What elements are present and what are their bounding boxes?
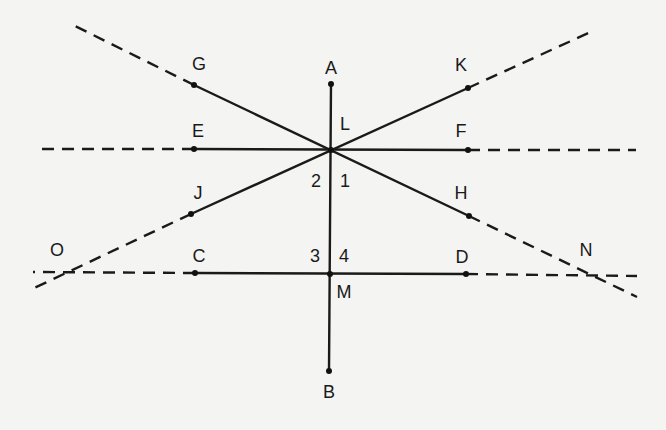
point-h-dot: [466, 213, 472, 219]
label-point-f: F: [456, 122, 467, 140]
label-point-e: E: [192, 122, 204, 140]
point-l-dot: [328, 147, 334, 153]
label-point-n: N: [580, 241, 593, 259]
label-angle-1: 1: [340, 172, 350, 190]
point-j-dot: [188, 211, 194, 217]
label-point-b: B: [323, 383, 335, 401]
label-point-m: M: [337, 283, 352, 301]
point-k-dot: [465, 85, 471, 91]
label-point-l: L: [340, 115, 350, 133]
label-point-c: C: [193, 247, 206, 265]
label-point-h: H: [455, 184, 468, 202]
dashed-ray-K-upright: [468, 30, 595, 88]
label-point-a: A: [325, 59, 337, 77]
geometry-diagram: A B C D E F G H J K L M O N 1 2 3 4: [0, 0, 666, 430]
dashed-ray-G-upleft: [73, 25, 194, 85]
label-angle-3: 3: [310, 247, 320, 265]
point-e-dot: [191, 146, 197, 152]
point-m-dot: [327, 271, 333, 277]
label-point-g: G: [192, 55, 206, 73]
point-f-dot: [465, 147, 471, 153]
segment-ab: [329, 84, 331, 371]
dashed-ray-C-left: [33, 272, 195, 273]
label-angle-2: 2: [311, 172, 321, 190]
point-b-dot: [326, 368, 332, 374]
point-c-dot: [192, 270, 198, 276]
label-point-k: K: [455, 56, 467, 74]
dashed-ray-D-right: [466, 274, 637, 276]
label-angle-4: 4: [339, 247, 349, 265]
point-g-dot: [191, 82, 197, 88]
point-a-dot: [328, 81, 334, 87]
label-point-d: D: [456, 248, 469, 266]
label-point-j: J: [194, 184, 203, 202]
dashed-ray-H-downright: [469, 216, 637, 297]
label-point-o: O: [50, 241, 64, 259]
point-d-dot: [463, 271, 469, 277]
